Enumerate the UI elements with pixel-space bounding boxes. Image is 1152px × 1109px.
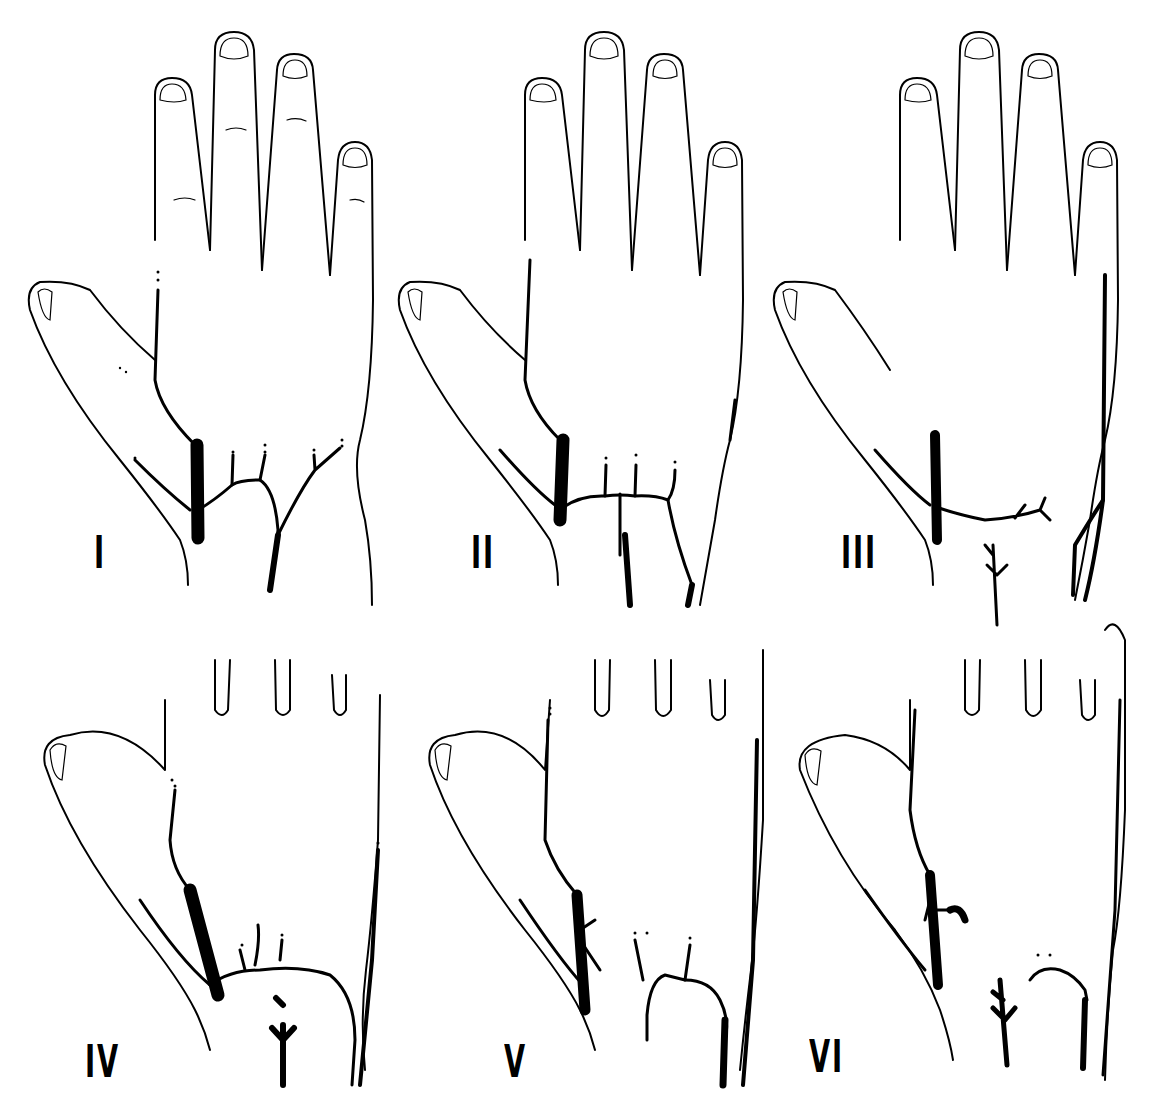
panel-v: V bbox=[385, 640, 775, 1109]
panel-label-ii: II bbox=[471, 531, 495, 575]
panel-label-i: I bbox=[94, 531, 106, 575]
panel-label-iv: IV bbox=[85, 1040, 120, 1084]
panel-iii: III bbox=[745, 0, 1129, 630]
panel-vi: VI bbox=[775, 610, 1152, 1109]
hand-illustration-i bbox=[0, 0, 384, 620]
panel-i: I bbox=[0, 0, 384, 620]
hand-illustration-iii bbox=[745, 0, 1129, 630]
hand-illustration-ii bbox=[370, 0, 754, 620]
panel-iv: IV bbox=[0, 640, 390, 1109]
hand-illustration-iv bbox=[0, 640, 390, 1109]
panel-ii: II bbox=[370, 0, 754, 620]
hand-illustration-v bbox=[385, 640, 775, 1109]
panel-label-vi: VI bbox=[809, 1035, 844, 1079]
panel-label-v: V bbox=[504, 1040, 527, 1084]
panel-label-iii: III bbox=[841, 531, 877, 575]
